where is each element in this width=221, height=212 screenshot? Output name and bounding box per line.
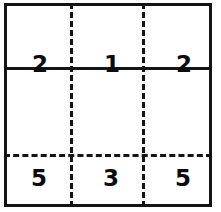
horizontal-dashed-divider [4, 154, 212, 157]
digit-bottom-column-3: 5 [166, 167, 200, 190]
digit-bottom-column-2: 3 [94, 167, 128, 190]
vertical-dashed-divider-right [142, 3, 145, 207]
vertical-dashed-divider-left [70, 3, 73, 207]
digit-top-column-3: 2 [167, 53, 201, 76]
digit-top-column-2: 1 [95, 53, 129, 76]
digit-bottom-column-1: 5 [22, 167, 56, 190]
digit-top-column-1: 2 [23, 53, 57, 76]
diagram-canvas: 2 1 2 5 3 5 [0, 0, 221, 212]
